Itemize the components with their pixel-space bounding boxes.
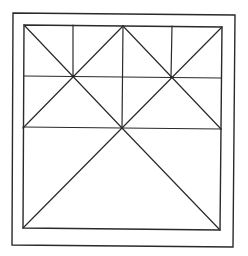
line-diag-lower-right: [122, 128, 220, 230]
geometric-diagram: [0, 0, 248, 256]
intersection-point: [121, 127, 123, 129]
intersection-point: [170, 76, 172, 78]
diagram-lines: [23, 25, 222, 230]
intersection-point: [72, 75, 74, 77]
line-top-vertical-right: [171, 26, 172, 77]
line-diag-lower-left: [23, 128, 122, 228]
